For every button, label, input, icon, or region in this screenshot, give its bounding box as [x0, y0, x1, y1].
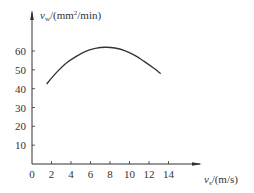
x-axis-arrow-icon — [192, 162, 202, 166]
series-curve — [47, 47, 161, 84]
x-tick-label: 8 — [107, 168, 113, 180]
x-tick-label: 12 — [144, 168, 155, 180]
x-tick-label: 4 — [68, 168, 74, 180]
y-tick-label: 60 — [15, 45, 27, 57]
x-axis-label: vs/(m/s) — [204, 173, 238, 187]
chart: 02468101214102030405060 vw/(mm2/min) vs/… — [0, 0, 254, 193]
y-axis-arrow-icon — [30, 10, 34, 20]
axes — [30, 10, 202, 166]
y-tick-label: 30 — [15, 102, 27, 114]
line-chart: 02468101214102030405060 vw/(mm2/min) vs/… — [0, 0, 254, 193]
x-tick-label: 10 — [124, 168, 136, 180]
x-tick-label: 2 — [49, 168, 55, 180]
y-axis-label: vw/(mm2/min) — [40, 9, 101, 23]
data-line — [47, 47, 161, 84]
x-tick-label: 14 — [163, 168, 175, 180]
x-tick-label: 0 — [29, 168, 35, 180]
y-tick-label: 50 — [15, 64, 27, 76]
y-tick-label: 10 — [15, 139, 27, 151]
y-tick-label: 20 — [15, 120, 27, 132]
y-tick-label: 40 — [15, 83, 27, 95]
x-tick-label: 6 — [88, 168, 94, 180]
